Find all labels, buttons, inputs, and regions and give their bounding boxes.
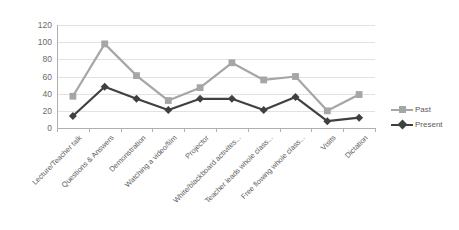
legend-item-past: Past <box>391 102 443 117</box>
x-axis-label-7: Free flowing whole class... <box>239 134 306 201</box>
chart-legend: Past Present <box>391 102 443 132</box>
legend-label-past: Past <box>415 105 431 114</box>
legend-label-present: Present <box>415 120 443 129</box>
x-axis-label-8: Visits <box>320 134 338 152</box>
x-axis-label-4: Projector <box>184 134 210 160</box>
legend-marker-past-icon <box>391 105 413 115</box>
x-axis-label-9: Dictation <box>344 134 370 160</box>
legend-item-present: Present <box>391 117 443 132</box>
legend-marker-present-icon <box>391 120 413 130</box>
line-chart: 120100806040200 Lecture/Teacher talkQues… <box>0 0 459 230</box>
